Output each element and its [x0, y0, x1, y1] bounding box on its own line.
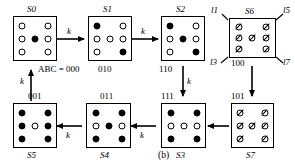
state-label-s7: S7	[246, 150, 255, 160]
dot-cell	[164, 132, 177, 145]
dot-cell	[164, 32, 177, 45]
dot	[31, 35, 38, 42]
dot-cell	[259, 32, 273, 43]
state-label-s6: S6	[245, 6, 254, 16]
dot	[167, 135, 174, 142]
dot	[261, 122, 268, 129]
dot-cell	[164, 19, 177, 32]
dot	[192, 35, 199, 42]
dot-cell	[189, 45, 202, 58]
dot-cell	[232, 32, 246, 43]
dot-cell	[16, 132, 29, 145]
dot-cell	[41, 119, 54, 132]
dot-cell	[102, 106, 115, 119]
state-label-s5: S5	[27, 150, 36, 160]
dot	[44, 48, 51, 55]
dot-cell	[41, 106, 54, 119]
dot	[249, 34, 256, 41]
dot-grid-s1	[89, 17, 131, 60]
dot	[31, 122, 38, 129]
state-code-s4: 011	[100, 91, 113, 101]
dot-cell	[16, 19, 29, 32]
state-box-s4[interactable]	[86, 103, 131, 148]
dot	[92, 122, 99, 129]
transition-label-s1-s2: k	[141, 26, 145, 36]
state-box-s1[interactable]	[88, 16, 132, 61]
leader-l7	[276, 57, 283, 63]
dot-cell	[91, 32, 104, 45]
dot-cell	[177, 19, 190, 32]
leader-l5	[276, 14, 283, 20]
dot	[94, 48, 101, 55]
dot	[263, 34, 270, 41]
dot-cell	[259, 21, 273, 32]
dot-cell	[16, 119, 29, 132]
dot	[106, 35, 113, 42]
state-code-s1: 010	[98, 64, 112, 74]
dot-cell	[29, 119, 42, 132]
dot-cell	[177, 106, 190, 119]
corner-label-l3: l3	[210, 57, 217, 67]
state-box-s5[interactable]	[13, 103, 57, 148]
dot-cell	[189, 32, 202, 45]
dot	[19, 22, 26, 29]
state-label-s0: S0	[27, 4, 36, 14]
dot-grid-s5	[14, 104, 56, 147]
state-box-s7[interactable]	[231, 103, 274, 148]
dot	[44, 135, 51, 142]
dot-cell	[190, 132, 203, 145]
dot	[237, 122, 244, 129]
dot	[237, 109, 244, 116]
dot	[235, 23, 242, 30]
dot	[44, 109, 51, 116]
dot-cell	[16, 45, 29, 58]
dot-cell	[177, 119, 190, 132]
dot-cell	[41, 32, 54, 45]
dot-cell	[259, 44, 273, 55]
dot-cell	[234, 119, 246, 132]
state-box-s3[interactable]	[161, 103, 206, 148]
figure-caption: (b)	[158, 150, 169, 160]
state-box-s2[interactable]	[161, 16, 205, 61]
dot	[118, 135, 125, 142]
dot-cell	[116, 19, 129, 32]
state-code-s6: 100	[231, 58, 245, 68]
dot	[193, 135, 200, 142]
state-code-s0: ABC = 000	[38, 64, 80, 74]
dot	[118, 122, 125, 129]
state-label-s1: S1	[103, 4, 112, 14]
dot-cell	[29, 106, 42, 119]
dot-cell	[232, 21, 246, 32]
dot-cell	[29, 32, 42, 45]
dot-cell	[29, 45, 42, 58]
dot-cell	[259, 119, 271, 132]
transition-label-s3-s4: k	[140, 130, 144, 140]
dot-cell	[89, 119, 102, 132]
state-code-s7: 101	[231, 91, 245, 101]
state-box-s6[interactable]	[229, 18, 276, 58]
dot-cell	[16, 106, 29, 119]
dot-cell	[246, 44, 260, 55]
transition-label-s5-s0: k	[20, 76, 24, 86]
leader-l3	[221, 57, 228, 63]
state-diagram: S0 ABC = 000 S1 010 S2 1	[0, 0, 295, 164]
dot	[249, 122, 256, 129]
dot	[192, 22, 199, 29]
dot-cell	[16, 32, 29, 45]
dot-cell	[115, 132, 128, 145]
dot-cell	[177, 32, 190, 45]
dot	[44, 122, 51, 129]
leader-l1	[222, 14, 228, 20]
dot-cell	[246, 132, 258, 145]
dot	[179, 35, 186, 42]
corner-label-l1: l1	[211, 5, 218, 15]
dot	[263, 46, 270, 53]
state-code-s3: 111	[161, 91, 174, 101]
state-label-s3: S3	[176, 150, 185, 160]
state-box-s0[interactable]	[13, 16, 57, 61]
dot-cell	[91, 19, 104, 32]
dot-cell	[116, 45, 129, 58]
dot	[19, 48, 26, 55]
dot	[261, 109, 268, 116]
dot-cell	[104, 32, 117, 45]
